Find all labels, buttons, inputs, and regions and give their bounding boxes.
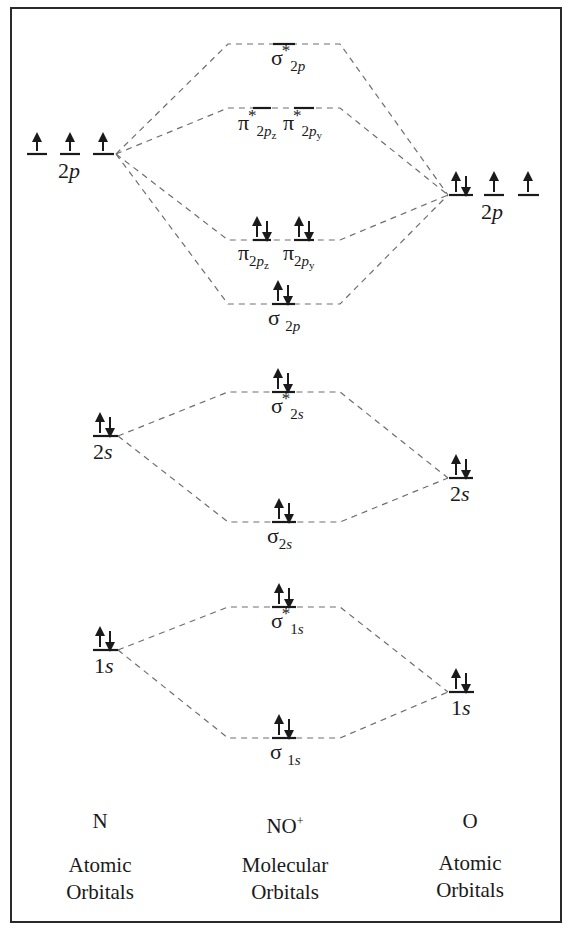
pi-2pz-label: π2pz	[238, 242, 269, 264]
sigma-2p-label: σ 2p	[268, 307, 300, 329]
sigma-star-2p-label: σ*2p	[271, 47, 305, 69]
n-2s-label: 2s	[93, 441, 113, 463]
o-2s-label: 2s	[450, 483, 470, 505]
o-1s-label: 1s	[451, 697, 471, 719]
pi-star-2pz-label: π*2pz	[238, 112, 277, 134]
sigma-1s-label: σ 1s	[270, 741, 301, 763]
title-o: O	[430, 808, 510, 835]
n-2p-label: 2p	[58, 160, 80, 182]
pi-star-2py-label: π*2py	[283, 112, 322, 134]
sigma-2s-label: σ2s	[267, 525, 292, 547]
pi-2py-label: π2py	[283, 242, 315, 264]
caption-right: AtomicOrbitals	[410, 850, 530, 904]
sigma-star-2s-label: σ*2s	[271, 395, 304, 417]
title-n: N	[60, 808, 140, 835]
caption-center: MolecularOrbitals	[210, 852, 360, 906]
n-1s-label: 1s	[94, 655, 114, 677]
title-no-plus: NO+	[230, 808, 340, 840]
o-2p-label: 2p	[481, 201, 503, 223]
caption-left: AtomicOrbitals	[40, 852, 160, 906]
sigma-star-1s-label: σ*1s	[271, 610, 304, 632]
mo-diagram-graphics	[0, 0, 569, 946]
